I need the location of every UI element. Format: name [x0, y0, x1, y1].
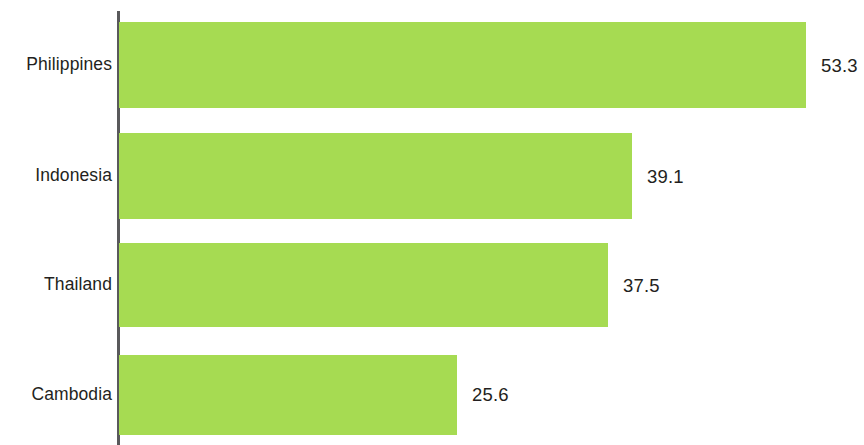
- category-label-thailand: Thailand: [44, 276, 112, 294]
- bar-row: Philippines 53.3: [0, 22, 864, 108]
- bar-philippines: [119, 22, 806, 108]
- bar-row: Cambodia 25.6: [0, 355, 864, 435]
- bar-indonesia: [119, 133, 632, 219]
- value-label-cambodia: 25.6: [472, 386, 509, 405]
- bar-row: Thailand 37.5: [0, 243, 864, 327]
- category-label-cambodia: Cambodia: [31, 386, 112, 404]
- category-label-philippines: Philippines: [26, 56, 112, 74]
- bar-cambodia: [119, 355, 457, 435]
- value-label-indonesia: 39.1: [647, 168, 684, 187]
- bar-chart: Philippines 53.3 Indonesia 39.1 Thailand…: [0, 0, 864, 445]
- value-label-thailand: 37.5: [623, 277, 660, 296]
- plot-area: Philippines 53.3 Indonesia 39.1 Thailand…: [0, 0, 864, 445]
- category-label-indonesia: Indonesia: [35, 167, 112, 185]
- bar-row: Indonesia 39.1: [0, 133, 864, 219]
- bar-thailand: [119, 243, 608, 327]
- value-label-philippines: 53.3: [821, 57, 858, 76]
